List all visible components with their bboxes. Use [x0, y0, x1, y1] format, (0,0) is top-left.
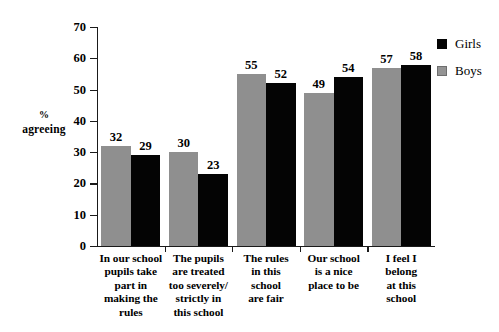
y-axis-tick: 30: [90, 152, 97, 153]
category-label-line: pupils take: [94, 265, 168, 278]
y-axis-line: [97, 27, 98, 246]
y-axis-tick: 40: [90, 121, 97, 122]
category-label-line: The pupils: [162, 252, 236, 265]
category-label-line: are treated: [162, 265, 236, 278]
bar-boys-4: 57: [372, 68, 402, 246]
bar-value-label: 55: [245, 58, 258, 72]
category-label-line: are fair: [229, 292, 303, 305]
y-axis-tick-label: 20: [74, 175, 87, 191]
legend-swatch-boys-icon: [437, 66, 447, 76]
bar-value-label: 29: [139, 139, 152, 153]
category-label-line: The rules: [229, 252, 303, 265]
category-label-line: part in: [94, 279, 168, 292]
bar-boys-0: 32: [101, 146, 131, 246]
y-axis-tick: 50: [90, 90, 97, 91]
y-axis-tick-label: 10: [74, 207, 87, 223]
bar-boys-1: 30: [169, 152, 199, 246]
category-label-line: too severely/: [162, 279, 236, 292]
category-label-line: belong: [364, 265, 438, 278]
category-label-2: The rulesin thisschoolare fair: [229, 252, 303, 306]
category-label-4: I feel Ibelongat thisschool: [364, 252, 438, 306]
legend: Girls Boys: [437, 36, 482, 90]
category-label-line: making the: [94, 292, 168, 305]
bar-value-label: 54: [342, 61, 355, 75]
bar-girls-0: 29: [131, 155, 161, 246]
category-label-line: at this: [364, 279, 438, 292]
category-label-1: The pupilsare treatedtoo severely/strict…: [162, 252, 236, 319]
category-label-line: In our school: [94, 252, 168, 265]
y-axis-tick-label: 50: [74, 82, 87, 98]
y-axis-tick: 0: [90, 246, 97, 247]
bar-value-label: 49: [313, 77, 326, 91]
bar-boys-2: 55: [237, 74, 267, 246]
category-label-line: place to be: [297, 279, 371, 292]
category-label-line: strictly in: [162, 292, 236, 305]
legend-label-boys: Boys: [455, 63, 482, 78]
bar-girls-1: 23: [198, 174, 228, 246]
y-axis-title-line-2: agreeing: [8, 122, 80, 136]
category-label-line: I feel I: [364, 252, 438, 265]
legend-item-boys: Boys: [437, 63, 482, 90]
category-label-0: In our schoolpupils takepart inmaking th…: [94, 252, 168, 319]
y-axis-tick-label: 0: [80, 238, 86, 254]
category-label-line: school: [229, 279, 303, 292]
bar-boys-3: 49: [304, 93, 334, 246]
category-label-line: school: [364, 292, 438, 305]
y-axis-tick: 60: [90, 58, 97, 59]
x-axis-line: [97, 246, 435, 247]
bar-chart: % agreeing 010203040506070 3229302355524…: [0, 0, 499, 332]
category-label-line: is a nice: [297, 265, 371, 278]
bar-value-label: 30: [177, 136, 190, 150]
bar-value-label: 57: [380, 52, 393, 66]
category-label-3: Our schoolis a niceplace to be: [297, 252, 371, 292]
y-axis-tick-label: 70: [74, 19, 87, 35]
bar-girls-3: 54: [334, 77, 364, 246]
bar-value-label: 23: [207, 158, 220, 172]
legend-item-girls: Girls: [437, 36, 482, 63]
bar-girls-4: 58: [401, 65, 431, 246]
category-label-line: Our school: [297, 252, 371, 265]
y-axis-title: % agreeing: [8, 108, 80, 136]
legend-swatch-girls-icon: [437, 39, 447, 49]
bar-value-label: 58: [410, 49, 423, 63]
bar-girls-2: 52: [266, 83, 296, 246]
plot-area: 010203040506070 32293023555249545758: [97, 27, 435, 246]
y-axis-tick-label: 60: [74, 50, 87, 66]
legend-label-girls: Girls: [455, 36, 481, 51]
y-axis-tick: 20: [90, 183, 97, 184]
y-axis-tick: 10: [90, 215, 97, 216]
category-label-line: rules: [94, 306, 168, 319]
bar-value-label: 32: [110, 130, 123, 144]
y-axis-tick-label: 40: [74, 113, 87, 129]
bar-value-label: 52: [275, 67, 288, 81]
category-label-line: in this: [229, 265, 303, 278]
y-axis-title-line-1: %: [8, 108, 80, 122]
y-axis-tick: 70: [90, 27, 97, 28]
category-label-line: this school: [162, 306, 236, 319]
y-axis-tick-label: 30: [74, 144, 87, 160]
